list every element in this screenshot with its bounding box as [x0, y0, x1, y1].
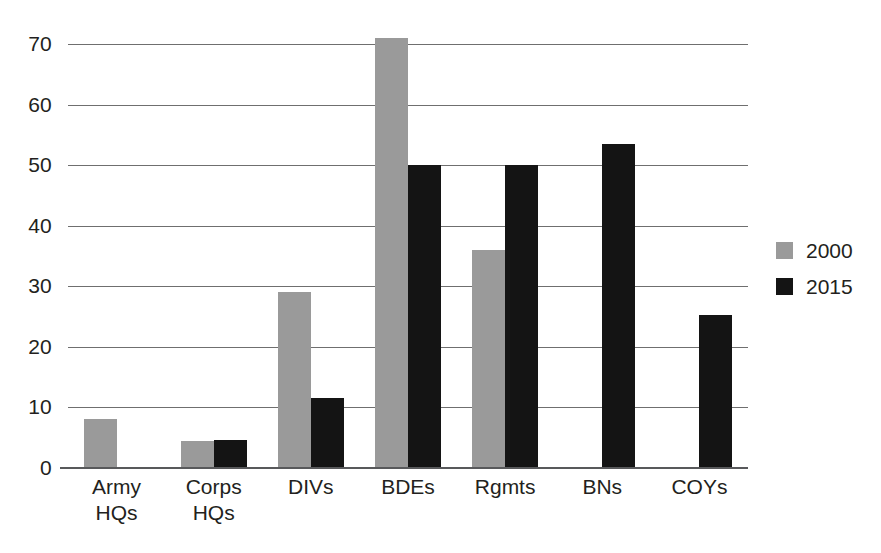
bar-2000-Army-HQs	[84, 419, 117, 468]
bar-2000-Rgmts	[472, 250, 505, 468]
x-category-label-line1: Rgmts	[475, 475, 536, 498]
bar-2000-Corps-HQs	[181, 441, 214, 468]
x-axis-category-labels: ArmyHQsCorpsHQsDIVsBDEsRgmtsBNsCOYs	[68, 474, 748, 534]
chart-legend: 20002015	[776, 232, 876, 304]
x-category-label-line1: Corps	[186, 475, 242, 498]
x-category-label: CorpsHQs	[165, 474, 262, 526]
x-category-label: Rgmts	[457, 474, 554, 500]
y-tick-label: 0	[0, 457, 52, 478]
y-tick-label: 40	[0, 215, 52, 236]
legend-item-2015: 2015	[776, 268, 876, 304]
x-category-label-line1: Army	[92, 475, 141, 498]
legend-label-2000: 2000	[806, 240, 853, 261]
legend-label-2015: 2015	[806, 276, 853, 297]
y-axis-tick-labels: 010203040506070	[0, 0, 52, 553]
legend-item-2000: 2000	[776, 232, 876, 268]
bar-2015-BNs	[602, 144, 635, 468]
bar-2015-DIVs	[311, 398, 344, 468]
x-category-label: BNs	[554, 474, 651, 500]
legend-swatch-2015	[776, 278, 793, 295]
bar-chart: 010203040506070 ArmyHQsCorpsHQsDIVsBDEsR…	[0, 0, 881, 553]
x-category-label-line1: BDEs	[381, 475, 435, 498]
y-tick-label: 30	[0, 275, 52, 296]
plot-area	[68, 44, 748, 468]
y-tick-label: 10	[0, 396, 52, 417]
bar-2015-COYs	[699, 315, 732, 468]
y-tick-label: 60	[0, 94, 52, 115]
y-tick-label: 70	[0, 33, 52, 54]
x-category-label: BDEs	[359, 474, 456, 500]
y-tick-label: 50	[0, 154, 52, 175]
bars-layer	[68, 44, 748, 468]
x-category-label-line2: HQs	[68, 500, 165, 526]
x-category-label: COYs	[651, 474, 748, 500]
bar-2000-BDEs	[375, 38, 408, 468]
bar-2015-Rgmts	[505, 165, 538, 468]
caption-cutoff	[68, 545, 768, 553]
bar-2015-BDEs	[408, 165, 441, 468]
y-tick-label: 20	[0, 336, 52, 357]
legend-swatch-2000	[776, 242, 793, 259]
x-category-label-line2: HQs	[165, 500, 262, 526]
x-axis-line	[60, 467, 748, 469]
x-category-label-line1: COYs	[671, 475, 727, 498]
x-category-label-line1: DIVs	[288, 475, 334, 498]
bar-2000-DIVs	[278, 292, 311, 468]
x-category-label: ArmyHQs	[68, 474, 165, 526]
bar-2015-Corps-HQs	[214, 440, 247, 468]
x-category-label: DIVs	[262, 474, 359, 500]
x-category-label-line1: BNs	[582, 475, 622, 498]
